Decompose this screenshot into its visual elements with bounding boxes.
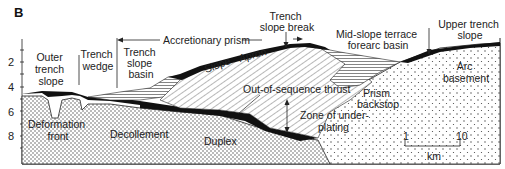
label-accretionary-prism: Accretionary prism — [163, 34, 250, 46]
label-trench-wedge: Trench wedge — [80, 48, 115, 72]
depth-tick-4: 4 — [8, 81, 14, 93]
scale-unit: km — [427, 150, 441, 162]
label-duplex: Duplex — [204, 135, 237, 147]
panel-label: B — [14, 5, 23, 20]
label-trench-slope-basin: Trench slope basin — [123, 46, 158, 80]
label-outer-trench-slope: Outer trench slope — [35, 51, 67, 87]
label-upper-trench-slope: Upper trench slope — [438, 18, 502, 41]
label-trench-slope-break: Trench slope break — [260, 10, 315, 33]
accretionary-prism-cross-section: B 2 4 6 8 Accr — [0, 0, 505, 169]
depth-tick-6: 6 — [8, 106, 14, 118]
label-decollement: Decollement — [110, 128, 168, 140]
depth-tick-2: 2 — [8, 56, 14, 68]
scale-label-left: 1 — [403, 130, 409, 142]
depth-tick-8: 8 — [8, 130, 14, 142]
label-prism-backstop: Prism backstop — [357, 87, 399, 110]
label-mid-slope-terrace: Mid-slope terrace forearc basin — [336, 28, 420, 51]
label-out-of-sequence-thrust: Out-of-sequence thrust — [243, 83, 350, 95]
scale-label-right: 10 — [456, 130, 468, 142]
